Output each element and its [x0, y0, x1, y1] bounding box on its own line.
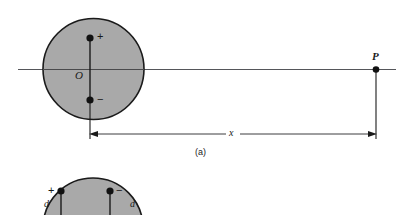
field-point-p-label: P [372, 51, 379, 62]
separation-d-left-label: d [44, 199, 49, 209]
panel-b-group [43, 178, 143, 215]
charge-negative-a-label: − [97, 94, 103, 105]
distance-x-label: x [229, 128, 233, 138]
charge-negative-a [86, 96, 93, 103]
field-point-p [373, 66, 380, 73]
separation-d-right-label: d [130, 199, 135, 209]
charge-positive-b [57, 187, 64, 194]
charge-positive-a [86, 34, 93, 41]
charge-positive-a-label: + [97, 31, 103, 42]
charge-negative-b-label: − [116, 185, 122, 196]
figure-root: + − O P x (a) + − d d [0, 0, 409, 215]
panel-a-caption: (a) [195, 148, 206, 157]
charge-negative-b [106, 187, 113, 194]
figure-canvas [0, 0, 409, 215]
charge-positive-b-label: + [48, 185, 54, 196]
disk-b [43, 178, 143, 215]
center-point-label: O [75, 70, 83, 81]
